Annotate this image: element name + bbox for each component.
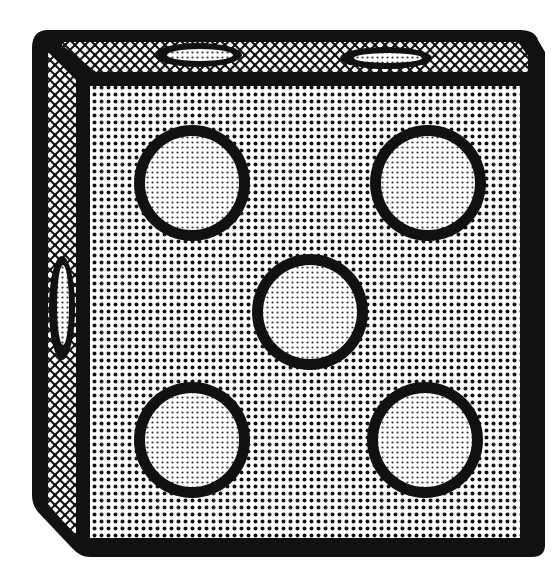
pip-top-right: [370, 125, 486, 241]
pip-center: [252, 254, 368, 370]
pip-bottom-right: [367, 382, 483, 498]
pip-top-left: [134, 125, 250, 241]
die-illustration: [0, 0, 560, 575]
pip-bottom-left: [134, 382, 250, 498]
side-face-pips: [49, 256, 75, 360]
die-top-face: [62, 42, 528, 72]
